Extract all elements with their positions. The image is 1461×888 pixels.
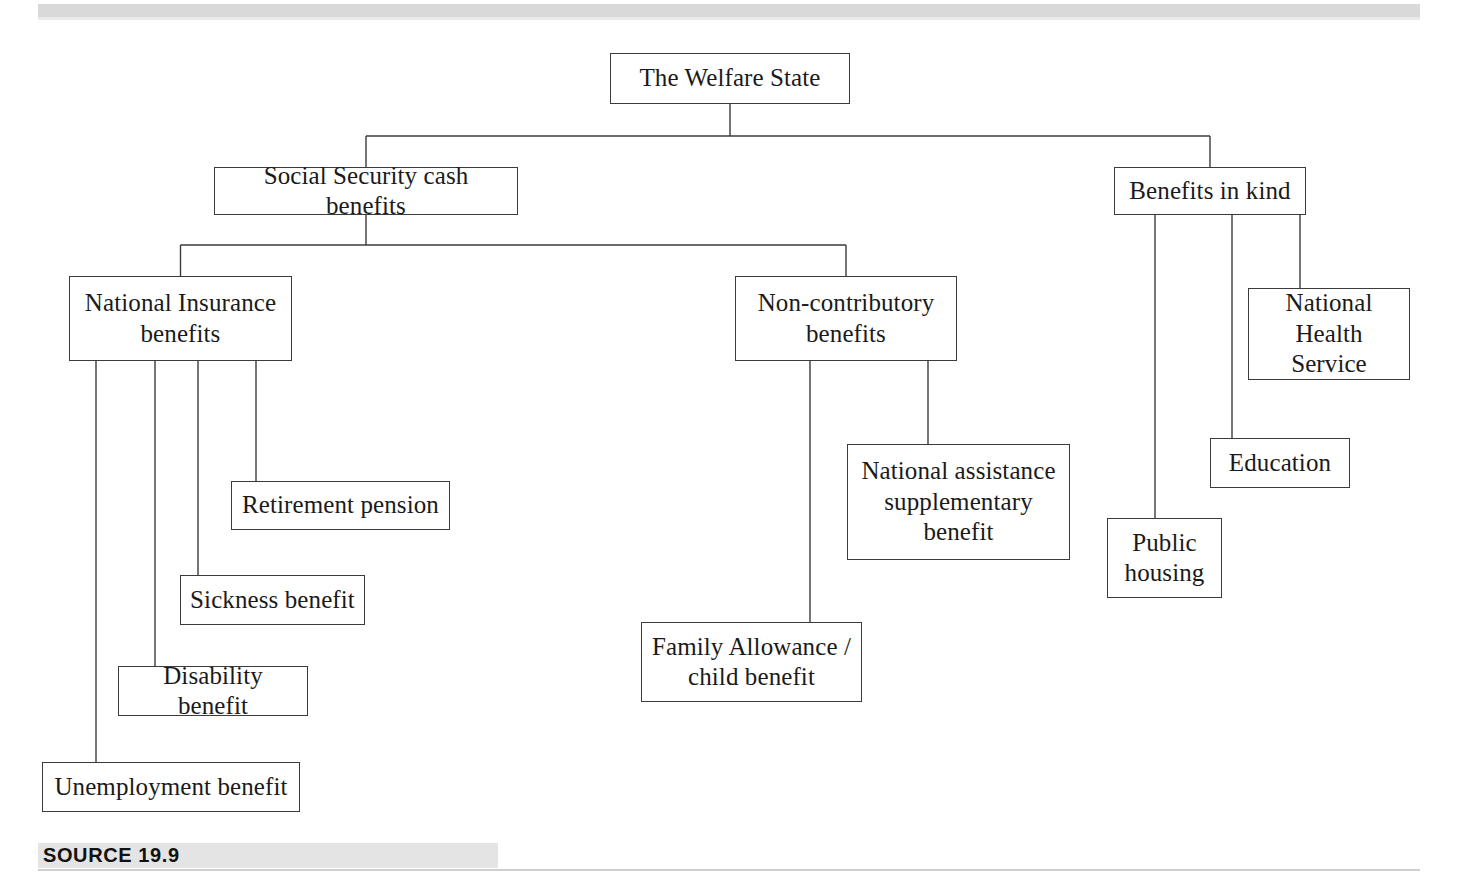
node-label: Disability benefit [125,661,301,722]
node-disability[interactable]: Disability benefit [118,666,308,716]
diagram-page: The Welfare StateSocial Security cash be… [0,0,1461,888]
node-ni[interactable]: National Insurance benefits [69,276,292,361]
node-label: The Welfare State [639,63,820,94]
node-natassist[interactable]: National assistance supplementary benefi… [847,444,1070,560]
node-label: Social Security cash benefits [221,161,511,222]
node-label: Family Allowance / child benefit [652,632,851,693]
node-unemployment[interactable]: Unemployment benefit [42,762,300,812]
node-label: Retirement pension [242,490,439,521]
node-label: Public housing [1125,528,1205,589]
node-retirement[interactable]: Retirement pension [231,481,450,530]
node-publichousing[interactable]: Public housing [1107,518,1222,598]
node-noncontrib[interactable]: Non-contributory benefits [735,276,957,361]
node-family[interactable]: Family Allowance / child benefit [641,622,862,702]
node-label: National assistance supplementary benefi… [861,456,1055,548]
node-kind[interactable]: Benefits in kind [1114,167,1306,215]
source-rule [38,869,1420,871]
node-root[interactable]: The Welfare State [610,53,850,104]
node-education[interactable]: Education [1210,438,1350,488]
node-label: Sickness benefit [190,585,355,616]
node-label: Non-contributory benefits [758,288,935,349]
source-label: SOURCE 19.9 [43,844,180,867]
diagram-canvas: The Welfare StateSocial Security cash be… [0,0,1461,888]
node-nhs[interactable]: National Health Service [1248,288,1410,380]
source-caption-area: SOURCE 19.9 [38,843,1420,873]
node-cash[interactable]: Social Security cash benefits [214,167,518,215]
node-label: National Health Service [1255,288,1403,380]
node-label: National Insurance benefits [85,288,276,349]
node-label: Unemployment benefit [54,772,287,803]
node-sickness[interactable]: Sickness benefit [180,575,365,625]
node-label: Benefits in kind [1129,176,1290,207]
node-label: Education [1229,448,1331,479]
